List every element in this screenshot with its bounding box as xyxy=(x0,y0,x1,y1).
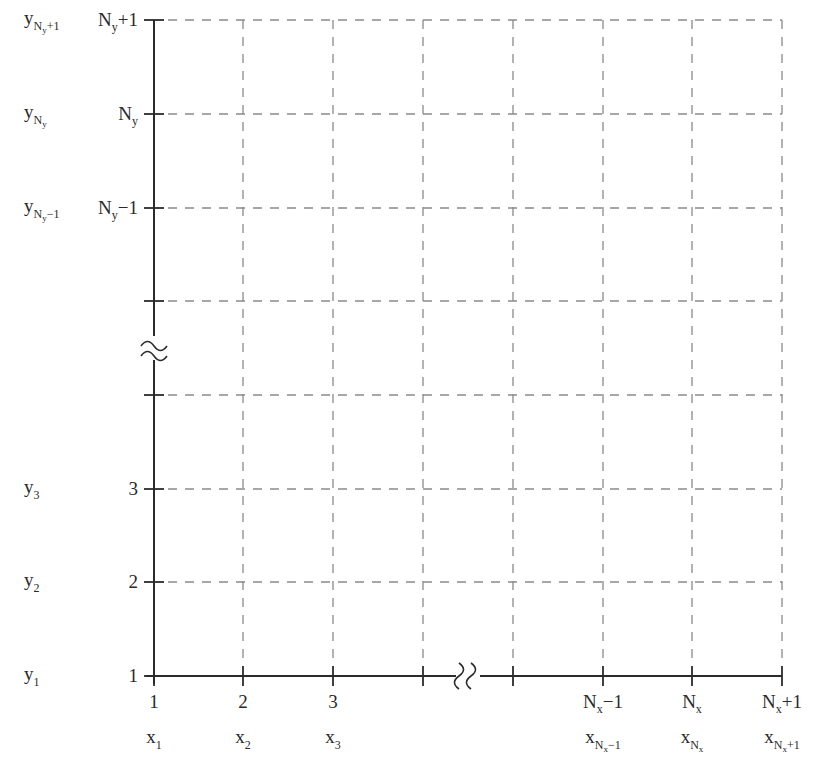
x-coord-label: x2 xyxy=(235,726,251,752)
y-index-label: Ny+1 xyxy=(98,9,138,34)
label-main: 3 xyxy=(129,478,139,499)
label-subsuffix: +1 xyxy=(787,738,800,752)
y-index-label: 3 xyxy=(129,478,139,499)
label-main: N xyxy=(583,691,597,712)
label-main: x xyxy=(235,726,245,747)
x-index-label: Nx xyxy=(682,691,702,716)
label-suffix: −1 xyxy=(603,691,623,712)
y-coord-label: yNy+1 xyxy=(24,7,59,35)
label-main: N xyxy=(118,103,132,124)
y-axis-break-icon xyxy=(141,352,167,361)
label-subscript: N xyxy=(595,738,604,752)
label-main: N xyxy=(98,197,112,218)
label-subscript: N xyxy=(34,113,43,127)
label-subsubscript: y xyxy=(42,119,47,129)
label-subsubscript: x xyxy=(699,744,704,754)
label-main: N xyxy=(682,691,696,712)
axes xyxy=(141,20,782,689)
label-subscript: 3 xyxy=(335,738,341,752)
label-main: 1 xyxy=(149,691,159,712)
y-coord-label: y2 xyxy=(24,569,40,595)
y-coord-label: yNy xyxy=(24,101,47,129)
x-coord-label: xNx+1 xyxy=(764,726,799,754)
label-main: y xyxy=(24,7,34,28)
label-main: y xyxy=(24,195,34,216)
label-main: x xyxy=(681,726,691,747)
label-subscript: 2 xyxy=(245,738,251,752)
label-subscript: N xyxy=(34,19,43,33)
label-main: 2 xyxy=(129,571,139,592)
label-main: y xyxy=(24,569,34,590)
label-subscript: y xyxy=(132,114,138,128)
x-coord-label: x3 xyxy=(325,726,341,752)
label-main: y xyxy=(24,476,34,497)
x-coord-label: xNx xyxy=(681,726,704,754)
label-subscript: x xyxy=(696,702,702,716)
x-index-label: 1 xyxy=(149,691,159,712)
label-main: N xyxy=(98,9,112,30)
label-subscript: N xyxy=(690,738,699,752)
label-subscript: 3 xyxy=(34,488,40,502)
x-axis-break-icon xyxy=(467,663,476,689)
label-suffix: +1 xyxy=(118,9,138,30)
label-subsuffix: −1 xyxy=(47,207,60,221)
label-subsuffix: +1 xyxy=(47,19,60,33)
label-main: 1 xyxy=(129,665,139,686)
label-main: x xyxy=(146,726,156,747)
x-index-label: 2 xyxy=(238,691,248,712)
grid-lines xyxy=(168,20,782,662)
y-coord-label: yNy−1 xyxy=(24,195,59,223)
y-index-label: Ny xyxy=(118,103,138,128)
label-main: 3 xyxy=(328,691,338,712)
label-suffix: −1 xyxy=(118,197,138,218)
label-main: y xyxy=(24,101,34,122)
label-subscript: 2 xyxy=(34,581,40,595)
y-index-label: Ny−1 xyxy=(98,197,138,222)
label-main: 2 xyxy=(238,691,248,712)
label-main: N xyxy=(762,691,776,712)
y-coord-label: y1 xyxy=(24,663,40,689)
label-main: x xyxy=(764,726,774,747)
y-coord-label: y3 xyxy=(24,476,40,502)
y-axis-break-icon xyxy=(141,342,167,351)
label-subscript: N xyxy=(34,207,43,221)
x-coord-label: x1 xyxy=(146,726,162,752)
label-main: x xyxy=(325,726,335,747)
label-main: x xyxy=(585,726,595,747)
x-index-label: Nx+1 xyxy=(762,691,802,716)
x-index-label: 3 xyxy=(328,691,338,712)
labels: 1x12x23x3Nx−1xNx−1NxxNxNx+1xNx+11y12y23y… xyxy=(24,7,802,754)
grid-diagram: 1x12x23x3Nx−1xNx−1NxxNxNx+1xNx+11y12y23y… xyxy=(0,0,813,767)
label-subscript: 1 xyxy=(34,675,40,689)
x-coord-label: xNx−1 xyxy=(585,726,620,754)
y-index-label: 1 xyxy=(129,665,139,686)
label-suffix: +1 xyxy=(782,691,802,712)
x-index-label: Nx−1 xyxy=(583,691,623,716)
label-main: y xyxy=(24,663,34,684)
label-subsuffix: −1 xyxy=(608,738,621,752)
label-subscript: 1 xyxy=(156,738,162,752)
y-index-label: 2 xyxy=(129,571,139,592)
label-subscript: N xyxy=(774,738,783,752)
